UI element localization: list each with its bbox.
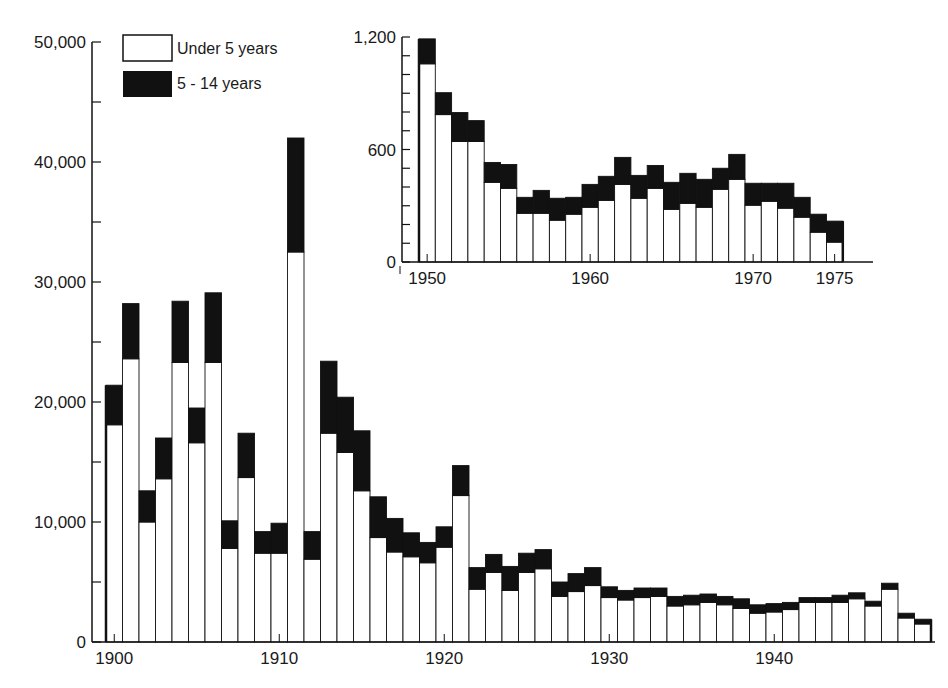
bar-segment-under-5 <box>535 569 552 642</box>
bar-segment-5-14 <box>519 553 536 572</box>
bar-segment-5-14 <box>566 197 582 214</box>
bar-segment-5-14 <box>106 385 123 425</box>
bar-1957 <box>533 190 549 262</box>
bar-1969 <box>729 154 745 262</box>
bar-segment-5-14 <box>882 583 899 589</box>
bar-1956 <box>517 197 533 262</box>
bar-segment-under-5 <box>549 220 565 262</box>
bar-segment-5-14 <box>139 491 156 522</box>
bar-1937 <box>717 596 734 642</box>
bar-segment-under-5 <box>566 214 582 262</box>
bar-segment-5-14 <box>453 466 470 496</box>
bar-segment-5-14 <box>502 566 519 590</box>
bar-segment-5-14 <box>794 197 810 217</box>
bar-segment-under-5 <box>533 213 549 262</box>
x-tick-label: 1975 <box>816 269 854 288</box>
bar-1900 <box>106 385 123 642</box>
bar-1947 <box>882 583 899 642</box>
bar-1959 <box>566 197 582 262</box>
bar-segment-5-14 <box>585 568 602 586</box>
bar-segment-5-14 <box>549 198 565 220</box>
bar-segment-under-5 <box>288 252 305 642</box>
bar-1949 <box>915 619 932 642</box>
legend-swatch-under-5 <box>123 35 172 61</box>
legend-label-5-14: 5 - 14 years <box>177 75 261 92</box>
bar-segment-under-5 <box>139 522 156 642</box>
bar-1964 <box>647 165 663 262</box>
bar-segment-5-14 <box>712 168 728 189</box>
bar-segment-under-5 <box>882 589 899 642</box>
bar-segment-5-14 <box>733 599 750 609</box>
bar-1912 <box>304 532 321 642</box>
bar-1948 <box>898 613 915 642</box>
bar-segment-5-14 <box>766 604 783 612</box>
bar-1902 <box>139 491 156 642</box>
x-tick-label: 1950 <box>408 269 446 288</box>
legend-label-under-5: Under 5 years <box>177 40 278 57</box>
bar-segment-5-14 <box>535 550 552 569</box>
bar-1950 <box>419 39 435 262</box>
bar-segment-5-14 <box>601 587 618 598</box>
bar-segment-under-5 <box>502 590 519 642</box>
bar-segment-under-5 <box>585 586 602 642</box>
bar-1945 <box>849 593 866 642</box>
bar-segment-5-14 <box>420 542 437 562</box>
bar-1913 <box>321 361 338 642</box>
y-tick-label: 10,000 <box>34 513 86 532</box>
x-tick-label: 1970 <box>734 269 772 288</box>
bar-1961 <box>598 176 614 262</box>
bar-1904 <box>172 301 189 642</box>
legend-swatch-5-14 <box>123 71 172 97</box>
bar-segment-under-5 <box>501 188 517 262</box>
bar-segment-under-5 <box>750 613 767 642</box>
bar-1928 <box>568 574 585 642</box>
bar-segment-under-5 <box>337 452 354 642</box>
bar-1916 <box>370 497 387 642</box>
bar-1967 <box>696 179 712 262</box>
bar-1920 <box>436 527 453 642</box>
bar-1946 <box>865 601 882 642</box>
bar-segment-5-14 <box>469 568 486 590</box>
bar-segment-under-5 <box>634 598 651 642</box>
bar-segment-5-14 <box>898 613 915 618</box>
bar-segment-under-5 <box>898 618 915 642</box>
bar-segment-under-5 <box>778 208 794 262</box>
bar-segment-5-14 <box>337 397 354 452</box>
bar-segment-5-14 <box>684 595 701 605</box>
bar-1973 <box>794 197 810 262</box>
bar-1917 <box>387 518 404 642</box>
bar-1905 <box>189 408 206 642</box>
bar-segment-5-14 <box>222 521 239 549</box>
bar-segment-under-5 <box>222 548 239 642</box>
bar-segment-under-5 <box>761 201 777 262</box>
bar-1966 <box>680 173 696 262</box>
bar-segment-5-14 <box>354 431 371 491</box>
bar-segment-5-14 <box>304 532 321 560</box>
bar-1934 <box>667 596 684 642</box>
bar-1908 <box>238 433 255 642</box>
y-tick-label: 40,000 <box>34 153 86 172</box>
bar-segment-5-14 <box>783 602 800 609</box>
y-tick-label: 20,000 <box>34 393 86 412</box>
bar-segment-under-5 <box>304 559 321 642</box>
inset-chart: 06001,2001950196019701975 <box>353 20 880 288</box>
bar-1924 <box>502 566 519 642</box>
bar-segment-5-14 <box>172 301 189 362</box>
bar-1944 <box>832 595 849 642</box>
bar-segment-5-14 <box>810 214 826 232</box>
bar-1938 <box>733 599 750 642</box>
bar-segment-5-14 <box>288 138 305 252</box>
bar-segment-under-5 <box>387 552 404 642</box>
bar-segment-5-14 <box>729 154 745 179</box>
legend: Under 5 years 5 - 14 years <box>123 35 278 97</box>
bar-segment-under-5 <box>631 198 647 262</box>
bar-1955 <box>501 165 517 263</box>
bar-segment-under-5 <box>684 605 701 642</box>
bar-1971 <box>761 183 777 262</box>
bar-segment-5-14 <box>370 497 387 538</box>
bar-segment-5-14 <box>568 574 585 592</box>
bar-1970 <box>745 183 761 262</box>
bar-1954 <box>484 162 500 262</box>
bar-segment-under-5 <box>354 491 371 642</box>
bar-segment-under-5 <box>419 64 435 262</box>
